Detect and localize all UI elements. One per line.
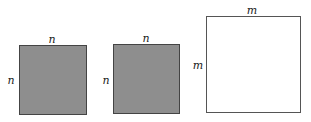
square-n-2 [113,44,180,114]
square-n-2-left-label: n [102,75,109,86]
square-n-2-top-label: n [142,33,149,44]
square-m [206,16,301,113]
square-m-left-label: m [193,60,203,71]
square-n-1-left-label: n [7,75,14,86]
square-m-top-label: m [247,5,257,16]
square-n-1 [19,45,87,115]
square-n-1-top-label: n [48,34,55,45]
